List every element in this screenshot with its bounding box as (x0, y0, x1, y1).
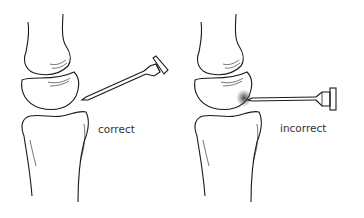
incorrect-label: incorrect (280, 122, 326, 134)
injury-mark (236, 89, 252, 107)
correct-label: correct (98, 123, 135, 135)
needle-incorrect (248, 88, 336, 110)
incorrect-panel (195, 14, 336, 202)
lower-bone (195, 111, 261, 202)
joint-injection-diagram (0, 0, 364, 218)
middle-bone (22, 72, 79, 110)
correct-panel (22, 14, 168, 202)
needle-correct (82, 56, 168, 100)
lower-bone (22, 111, 88, 202)
